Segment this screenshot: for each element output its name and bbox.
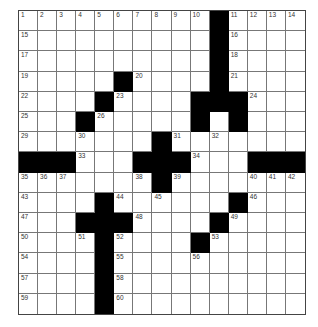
grid-cell[interactable]: [267, 294, 286, 314]
grid-cell[interactable]: 10: [191, 11, 210, 31]
grid-cell[interactable]: [172, 233, 191, 253]
grid-cell[interactable]: [95, 72, 114, 92]
grid-cell[interactable]: [172, 31, 191, 51]
grid-cell[interactable]: [38, 51, 57, 71]
grid-cell[interactable]: 43: [19, 193, 38, 213]
grid-cell[interactable]: [114, 173, 133, 193]
grid-cell[interactable]: 32: [210, 132, 229, 152]
grid-cell[interactable]: [152, 233, 171, 253]
grid-cell[interactable]: [267, 31, 286, 51]
grid-cell[interactable]: [229, 152, 248, 172]
grid-cell[interactable]: [191, 132, 210, 152]
grid-cell[interactable]: [133, 112, 152, 132]
grid-cell[interactable]: [133, 92, 152, 112]
grid-cell[interactable]: [133, 253, 152, 273]
grid-cell[interactable]: 42: [286, 173, 305, 193]
grid-cell[interactable]: [76, 274, 95, 294]
grid-cell[interactable]: [133, 193, 152, 213]
grid-cell[interactable]: 7: [133, 11, 152, 31]
grid-cell[interactable]: 51: [76, 233, 95, 253]
grid-cell[interactable]: [267, 72, 286, 92]
grid-cell[interactable]: [267, 233, 286, 253]
grid-cell[interactable]: 54: [19, 253, 38, 273]
grid-cell[interactable]: [133, 233, 152, 253]
grid-cell[interactable]: [248, 274, 267, 294]
grid-cell[interactable]: 39: [172, 173, 191, 193]
grid-cell[interactable]: [152, 253, 171, 273]
grid-cell[interactable]: [76, 92, 95, 112]
grid-cell[interactable]: [286, 253, 305, 273]
grid-cell[interactable]: [267, 51, 286, 71]
grid-cell[interactable]: [210, 173, 229, 193]
grid-cell[interactable]: 3: [57, 11, 76, 31]
grid-cell[interactable]: [191, 274, 210, 294]
grid-cell[interactable]: [38, 213, 57, 233]
grid-cell[interactable]: [57, 31, 76, 51]
grid-cell[interactable]: [76, 31, 95, 51]
grid-cell[interactable]: 52: [114, 233, 133, 253]
grid-cell[interactable]: 11: [229, 11, 248, 31]
grid-cell[interactable]: [152, 294, 171, 314]
grid-cell[interactable]: [286, 233, 305, 253]
grid-cell[interactable]: [191, 173, 210, 193]
grid-cell[interactable]: [172, 213, 191, 233]
grid-cell[interactable]: [38, 253, 57, 273]
grid-cell[interactable]: [57, 72, 76, 92]
grid-cell[interactable]: 60: [114, 294, 133, 314]
grid-cell[interactable]: 26: [95, 112, 114, 132]
grid-cell[interactable]: [95, 51, 114, 71]
grid-cell[interactable]: 36: [38, 173, 57, 193]
grid-cell[interactable]: [95, 31, 114, 51]
grid-cell[interactable]: [286, 213, 305, 233]
grid-cell[interactable]: [286, 274, 305, 294]
grid-cell[interactable]: [286, 92, 305, 112]
grid-cell[interactable]: 55: [114, 253, 133, 273]
grid-cell[interactable]: 2: [38, 11, 57, 31]
grid-cell[interactable]: [286, 31, 305, 51]
grid-cell[interactable]: [191, 193, 210, 213]
grid-cell[interactable]: [248, 132, 267, 152]
grid-cell[interactable]: [95, 132, 114, 152]
grid-cell[interactable]: [267, 274, 286, 294]
grid-cell[interactable]: 24: [248, 92, 267, 112]
grid-cell[interactable]: [38, 31, 57, 51]
grid-cell[interactable]: 1: [19, 11, 38, 31]
grid-cell[interactable]: [172, 92, 191, 112]
grid-cell[interactable]: [267, 253, 286, 273]
grid-cell[interactable]: 12: [248, 11, 267, 31]
grid-cell[interactable]: [210, 152, 229, 172]
grid-cell[interactable]: 14: [286, 11, 305, 31]
grid-cell[interactable]: 33: [76, 152, 95, 172]
grid-cell[interactable]: [172, 274, 191, 294]
grid-cell[interactable]: [152, 92, 171, 112]
grid-cell[interactable]: [229, 233, 248, 253]
grid-cell[interactable]: 4: [76, 11, 95, 31]
grid-cell[interactable]: [57, 92, 76, 112]
grid-cell[interactable]: [172, 51, 191, 71]
grid-cell[interactable]: [95, 173, 114, 193]
grid-cell[interactable]: [286, 132, 305, 152]
grid-cell[interactable]: 45: [152, 193, 171, 213]
grid-cell[interactable]: [248, 253, 267, 273]
grid-cell[interactable]: [248, 294, 267, 314]
grid-cell[interactable]: 41: [267, 173, 286, 193]
grid-cell[interactable]: [248, 72, 267, 92]
grid-cell[interactable]: 5: [95, 11, 114, 31]
grid-cell[interactable]: [210, 193, 229, 213]
grid-cell[interactable]: [38, 294, 57, 314]
grid-cell[interactable]: 16: [229, 31, 248, 51]
grid-cell[interactable]: 35: [19, 173, 38, 193]
grid-cell[interactable]: 31: [172, 132, 191, 152]
grid-cell[interactable]: [248, 233, 267, 253]
grid-cell[interactable]: 23: [114, 92, 133, 112]
grid-cell[interactable]: 29: [19, 132, 38, 152]
grid-cell[interactable]: [114, 31, 133, 51]
grid-cell[interactable]: [172, 72, 191, 92]
grid-cell[interactable]: [210, 294, 229, 314]
grid-cell[interactable]: 22: [19, 92, 38, 112]
grid-cell[interactable]: [191, 31, 210, 51]
grid-cell[interactable]: 9: [172, 11, 191, 31]
grid-cell[interactable]: 8: [152, 11, 171, 31]
grid-cell[interactable]: [114, 51, 133, 71]
grid-cell[interactable]: 13: [267, 11, 286, 31]
